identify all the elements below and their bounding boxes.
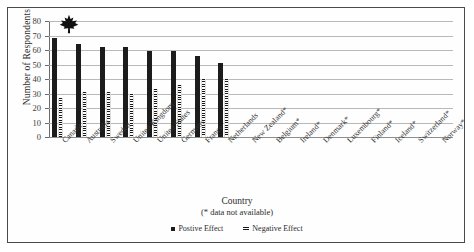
- y-tick-mark-10: [45, 123, 49, 124]
- bar-negative: [58, 98, 63, 137]
- bar-group: [120, 21, 144, 137]
- y-tick-mark-0: [45, 137, 49, 138]
- x-axis-title: Country: [8, 196, 466, 206]
- bar-negative: [106, 92, 111, 137]
- bar-group: [97, 21, 121, 137]
- x-axis-note: (* data not available): [8, 207, 466, 217]
- y-tick-mark-50: [45, 65, 49, 66]
- y-tick-label-40: 40: [11, 75, 41, 84]
- y-tick-label-70: 70: [11, 32, 41, 41]
- y-tick-mark-20: [45, 108, 49, 109]
- legend-entry-negative: Negative Effect: [243, 224, 302, 233]
- bar-group: [73, 21, 97, 137]
- chart-legend: Postive Effect Negative Effect: [8, 224, 466, 233]
- y-tick-label-30: 30: [11, 90, 41, 99]
- bar-negative: [82, 92, 87, 137]
- y-tick-mark-60: [45, 50, 49, 51]
- legend-swatch-positive-icon: [171, 227, 175, 231]
- y-tick-label-80: 80: [11, 17, 41, 26]
- bar-positive: [52, 38, 57, 137]
- legend-label-negative: Negative Effect: [252, 224, 302, 233]
- y-tick-label-50: 50: [11, 61, 41, 70]
- bar-negative: [129, 94, 134, 138]
- bar-group: [49, 21, 73, 137]
- y-tick-label-60: 60: [11, 46, 41, 55]
- y-tick-label-10: 10: [11, 119, 41, 128]
- legend-label-positive: Postive Effect: [178, 224, 223, 233]
- y-tick-mark-70: [45, 36, 49, 37]
- y-tick-label-0: 0: [11, 133, 41, 142]
- y-tick-mark-80: [45, 21, 49, 22]
- maple-leaf-icon: [58, 13, 80, 35]
- legend-entry-positive: Postive Effect: [171, 224, 223, 233]
- bar-group: [405, 21, 429, 137]
- chart-figure-frame: Number of Respondents CanadaAustraliaSwe…: [7, 7, 465, 243]
- y-tick-mark-40: [45, 79, 49, 80]
- y-tick-mark-30: [45, 94, 49, 95]
- y-tick-label-20: 20: [11, 104, 41, 113]
- bar-group: [215, 21, 239, 137]
- bar-group: [310, 21, 334, 137]
- x-axis-tick-labels: CanadaAustraliaSwedenUnited KingdomUnite…: [49, 139, 453, 197]
- legend-swatch-negative-icon: [243, 227, 249, 231]
- bar-group: [382, 21, 406, 137]
